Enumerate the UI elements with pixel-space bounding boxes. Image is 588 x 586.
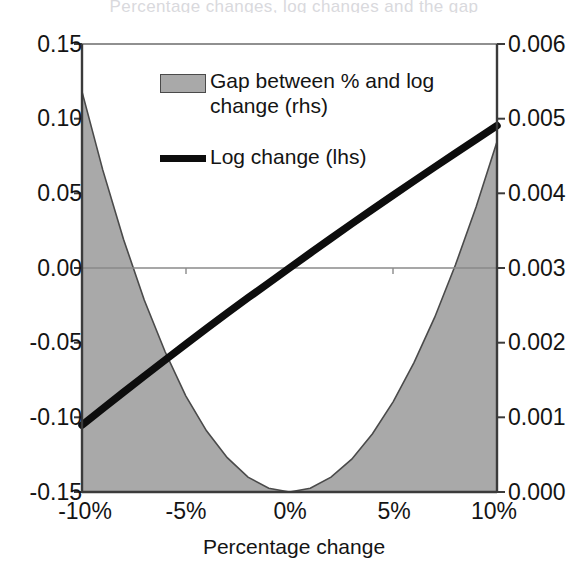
legend-label-gap-area: Gap between % and log change (rhs) bbox=[210, 68, 450, 118]
x-tick-label: 0% bbox=[273, 500, 306, 523]
y-right-tick-label: 0.001 bbox=[508, 406, 566, 429]
y-right-ticks bbox=[497, 44, 505, 492]
plot-area: 0.15 0.10 0.05 0.00 -0.05 -0.10 -0.15 0.… bbox=[0, 0, 588, 586]
line-swatch-icon bbox=[160, 155, 206, 162]
y-right-tick-label: 0.002 bbox=[508, 331, 566, 354]
chart-figure: Percentage changes, log changes and the … bbox=[0, 0, 588, 586]
y-left-tick-label: 0.10 bbox=[37, 107, 82, 130]
y-left-tick-label: 0.00 bbox=[37, 257, 82, 280]
x-axis-title: Percentage change bbox=[0, 535, 588, 559]
y-right-tick-label: 0.006 bbox=[508, 33, 566, 56]
y-left-tick-label: 0.05 bbox=[37, 182, 82, 205]
y-left-tick-label: -0.05 bbox=[30, 331, 82, 354]
legend-entry-gap-area: Gap between % and log change (rhs) bbox=[160, 68, 450, 118]
y-right-tick-label: 0.004 bbox=[508, 182, 566, 205]
x-tick-label: 5% bbox=[377, 500, 410, 523]
chart-legend: Gap between % and log change (rhs) Log c… bbox=[160, 68, 450, 175]
x-tick-label: 10% bbox=[471, 500, 517, 523]
area-swatch-icon bbox=[160, 74, 206, 93]
legend-entry-log-change: Log change (lhs) bbox=[160, 144, 450, 169]
y-right-tick-label: 0.003 bbox=[508, 257, 566, 280]
x-tick-label: -10% bbox=[58, 500, 112, 523]
legend-label-log-change: Log change (lhs) bbox=[210, 144, 366, 169]
y-right-tick-label: 0.005 bbox=[508, 107, 566, 130]
x-tick-label: -5% bbox=[166, 500, 207, 523]
y-left-tick-label: 0.15 bbox=[37, 33, 82, 56]
y-left-tick-label: -0.10 bbox=[30, 406, 82, 429]
